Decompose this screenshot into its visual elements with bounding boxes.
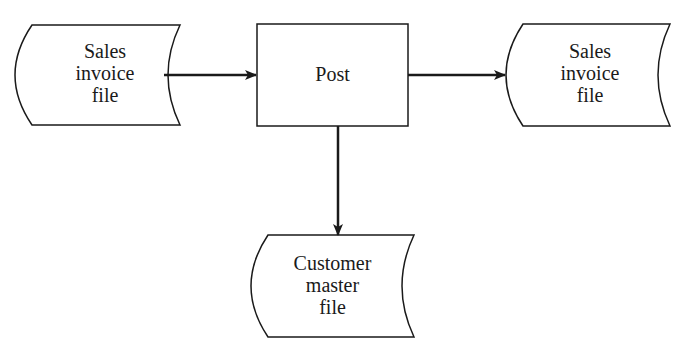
output-file-line-1: Sales (525, 40, 655, 62)
master-file-label: Customer master file (265, 252, 400, 318)
input-file-line-2: invoice (40, 62, 170, 84)
master-file-line-2: master (265, 274, 400, 296)
output-file-line-2: invoice (525, 62, 655, 84)
output-file-label: Sales invoice file (525, 40, 655, 106)
input-file-label: Sales invoice file (40, 40, 170, 106)
master-file-line-1: Customer (265, 252, 400, 274)
post-process-label: Post (257, 63, 408, 85)
input-file-line-3: file (40, 84, 170, 106)
post-label-text: Post (257, 63, 408, 85)
master-file-line-3: file (265, 296, 400, 318)
output-file-line-3: file (525, 84, 655, 106)
input-file-line-1: Sales (40, 40, 170, 62)
